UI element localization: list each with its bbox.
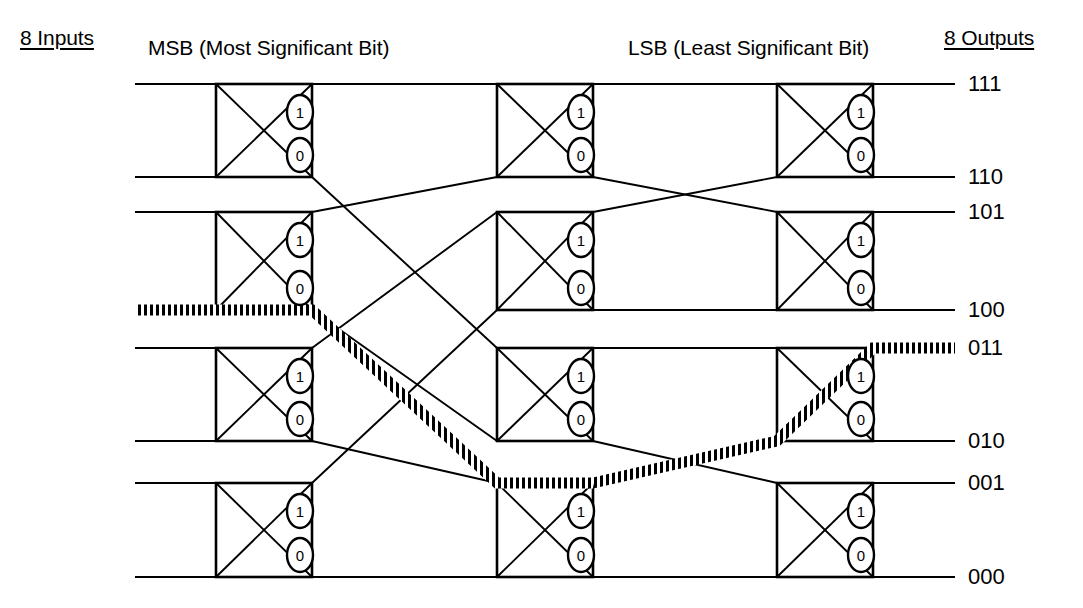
port-label-lower: 0 (857, 547, 865, 564)
link-s1-s2 (312, 177, 497, 348)
network-diagram: 8 Inputs MSB (Most Significant Bit) LSB … (0, 0, 1083, 608)
port-label-lower: 0 (857, 280, 865, 297)
switch-elements (216, 84, 873, 577)
port-label-upper: 1 (296, 232, 304, 249)
port-label-lower: 0 (296, 547, 304, 564)
port-label-lower: 0 (577, 147, 585, 164)
port-label-lower: 0 (296, 411, 304, 428)
port-label-lower: 0 (296, 147, 304, 164)
network-wires (135, 84, 955, 577)
port-label-upper: 1 (296, 104, 304, 121)
port-label-lower: 0 (577, 280, 585, 297)
link-s1-s2 (312, 177, 497, 212)
port-label-upper: 1 (296, 368, 304, 385)
route-segment-stage2-3 (593, 348, 955, 483)
highlighted-route (135, 310, 955, 483)
port-label-lower: 0 (857, 147, 865, 164)
route-segment-stage1-2 (135, 310, 593, 483)
switch-port-labels: 101010101010101010101010 (287, 95, 874, 572)
port-label-upper: 1 (577, 368, 585, 385)
port-label-lower: 0 (577, 547, 585, 564)
port-label-lower: 0 (296, 280, 304, 297)
port-label-lower: 0 (577, 411, 585, 428)
port-label-upper: 1 (577, 232, 585, 249)
port-label-upper: 1 (296, 503, 304, 520)
network-svg: 101010101010101010101010 (0, 0, 1083, 608)
port-label-upper: 1 (857, 104, 865, 121)
port-label-upper: 1 (857, 232, 865, 249)
link-s1-s2 (312, 212, 497, 348)
port-label-upper: 1 (857, 503, 865, 520)
port-label-lower: 0 (857, 411, 865, 428)
port-label-upper: 1 (577, 503, 585, 520)
port-label-upper: 1 (577, 104, 585, 121)
port-label-upper: 1 (857, 368, 865, 385)
